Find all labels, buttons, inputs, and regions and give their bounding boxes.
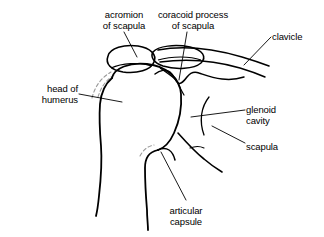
scapula-body [178,133,222,172]
label-scapula: scapula [246,141,298,152]
scapula-inferior-detail [190,147,204,149]
acromion-of-scapula [107,45,155,72]
leader-coracoid [179,32,187,80]
leader-articular-capsule [161,152,186,200]
label-glenoid-line1: glenoid [246,104,276,115]
glenoid-cavity-arc [201,97,209,135]
label-coracoid-process-of-scapula: coracoid process of scapula [152,9,234,31]
acromion-outline [107,45,155,72]
greater-tubercle-notch [158,149,175,161]
humeral-head-dome [112,64,181,150]
label-clavicle: clavicle [272,31,322,42]
leader-glenoid-cavity [191,110,245,117]
scapula-lateral-border [178,133,222,172]
label-scapula-line1: scapula [246,141,278,152]
label-glenoid-line2: cavity [246,115,270,126]
leader-scapula [212,126,245,143]
glenoid-fossa-curve [201,97,209,135]
label-articular-line2: capsule [170,216,202,227]
clavicle-bone [158,48,269,77]
leader-clavicle [244,37,271,65]
shoulder-joint-diagram: acromion of scapula coracoid process of … [0,0,324,237]
label-head-humerus-line2: humerus [42,94,78,105]
label-acromion-of-scapula: acromion of scapula [88,9,160,31]
label-coracoid-line1: coracoid process [158,9,228,20]
capsule-dash-lower [140,145,154,156]
label-glenoid-cavity: glenoid cavity [246,104,304,126]
label-clavicle-line1: clavicle [272,31,302,42]
label-head-humerus-line1: head of [47,83,78,94]
label-articular-capsule: articular capsule [155,205,217,227]
label-head-of-humerus: head of humerus [14,83,78,105]
label-acromion-line2: of scapula [103,20,145,31]
coracoid-process-of-scapula [152,46,204,80]
leader-acromion [124,32,137,57]
label-coracoid-line2: of scapula [172,20,214,31]
label-acromion-line1: acromion [105,9,143,20]
label-articular-line1: articular [170,205,203,216]
coracoid-inner-ridge [158,57,201,60]
